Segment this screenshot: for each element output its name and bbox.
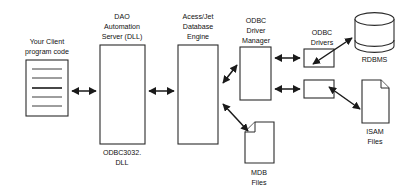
architecture-diagram: Your Client program code DAO Automation … [0,0,408,190]
node-jet-database-engine: Acess/Jet Database Engine [178,13,218,144]
connector-jet-to-odbc-manager [223,65,237,83]
jet-box [178,45,218,144]
odbc-drivers-label-line1: ODBC [312,29,333,37]
document-icon [26,60,68,116]
jet-label-line1: Acess/Jet [183,13,214,21]
database-cylinder-icon [355,13,394,53]
mdb-label-line1: MDB [251,169,267,177]
client-label-line2: program code [25,48,69,56]
document-icon [362,80,389,123]
rdbms-label: RDBMS [362,56,388,64]
node-mdb-files: MDB Files [245,122,274,187]
mdb-label-line2: Files [252,179,267,187]
node-rdbms: RDBMS [355,13,394,64]
connector-jet-to-mdb [223,104,248,131]
client-label-line1: Your Client [30,38,64,46]
node-isam-files: ISAM Files [362,80,389,146]
node-client-program-code: Your Client program code [25,38,69,116]
odbc-drivers-label-line2: Drivers [311,39,334,47]
isam-label-line1: ISAM [366,128,383,136]
odbc-driver-box-bottom [304,80,334,98]
odbc-driver-box-top [304,49,334,67]
dao-label-line2: Automation [104,23,140,31]
dao-caption-line2: DLL [115,159,128,167]
document-icon [245,122,274,163]
dao-box [100,45,145,144]
jet-label-line3: Engine [187,33,209,41]
jet-label-line2: Database [183,23,213,31]
odbc-manager-box [240,47,271,100]
odbc-manager-label-line1: ODBC [246,17,267,25]
dao-label-line1: DAO [114,13,130,21]
isam-label-line2: Files [368,138,383,146]
diagram-canvas: Your Client program code DAO Automation … [0,0,408,190]
node-odbc-driver-manager: ODBC Driver Manager [240,17,271,100]
dao-caption-line1: ODBC3032. [103,149,141,157]
node-dao-automation-server: DAO Automation Server (DLL) ODBC3032. DL… [100,13,145,167]
odbc-manager-label-line2: Driver [247,27,267,35]
odbc-manager-label-line3: Manager [242,37,271,45]
dao-label-line3: Server (DLL) [102,33,143,41]
